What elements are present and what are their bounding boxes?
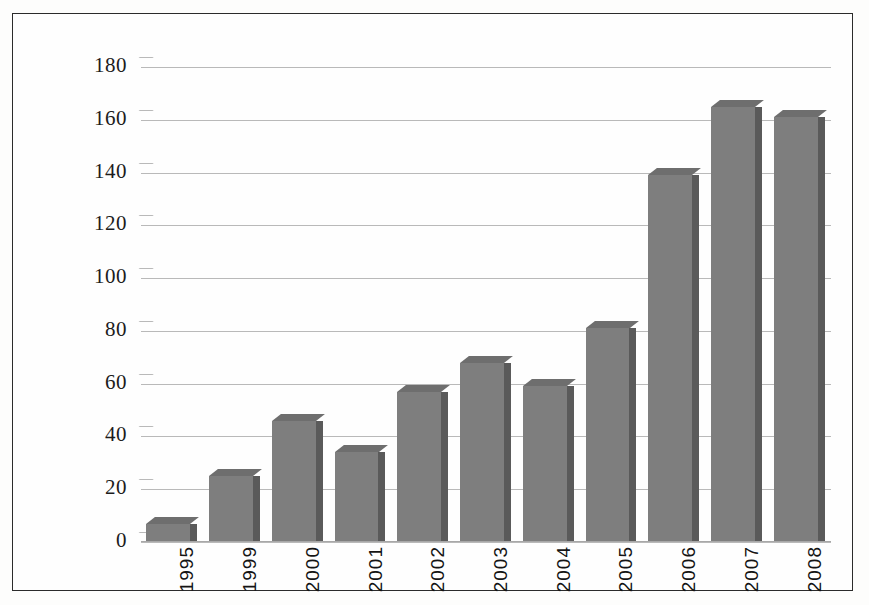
chart-frame: 020406080100120140160180 199519992000200…	[12, 13, 853, 591]
bar[interactable]	[711, 107, 755, 542]
bar-side-face	[378, 452, 385, 542]
bar-top-face	[397, 385, 450, 392]
bar-side-face	[253, 476, 260, 542]
bar-side-face	[190, 524, 197, 542]
y-axis-tick-label: 40	[105, 422, 127, 447]
bar-side-face	[567, 386, 574, 542]
x-axis-tick-label: 2002	[427, 546, 449, 592]
bar-front-face	[460, 363, 504, 542]
bar-series	[141, 54, 831, 542]
bar-top-face	[711, 100, 764, 107]
y-axis-tick-labels: 020406080100120140160180	[59, 54, 127, 542]
bar[interactable]	[586, 328, 630, 542]
bar-top-face	[146, 517, 199, 524]
bar-top-face	[209, 469, 262, 476]
y-axis-tick-label: 140	[94, 159, 127, 184]
x-axis-tick-label: 2005	[615, 546, 637, 592]
y-axis-tick-label: 80	[105, 317, 127, 342]
bar[interactable]	[648, 175, 692, 542]
x-axis-tick-label: 2008	[804, 546, 826, 592]
bar-side-face	[629, 328, 636, 542]
bar-front-face	[586, 328, 630, 542]
bar[interactable]	[460, 363, 504, 542]
bar-side-face	[441, 392, 448, 542]
x-axis-baseline	[141, 541, 831, 542]
bar-front-face	[146, 524, 190, 542]
bar-top-face	[774, 110, 827, 117]
plot-area	[141, 54, 831, 542]
x-axis-tick-label: 2006	[678, 546, 700, 592]
bar-top-face	[586, 321, 639, 328]
bar-top-face	[460, 356, 513, 363]
bar-top-face	[523, 379, 576, 386]
bar[interactable]	[523, 386, 567, 542]
bar-side-face	[504, 363, 511, 542]
bar[interactable]	[146, 524, 190, 542]
bar-side-face	[316, 421, 323, 542]
x-axis-tick-label: 2000	[302, 546, 324, 592]
y-axis-tick-label: 100	[94, 264, 127, 289]
bar[interactable]	[272, 421, 316, 542]
gridline	[141, 542, 831, 543]
bar-top-face	[335, 445, 388, 452]
x-axis-tick-label: 2003	[490, 546, 512, 592]
bar-front-face	[335, 452, 379, 542]
bar-front-face	[774, 117, 818, 542]
y-axis-tick-label: 120	[94, 211, 127, 236]
y-axis-tick-label: 160	[94, 106, 127, 131]
x-axis-tick-label: 2001	[365, 546, 387, 592]
y-axis-tick-label: 0	[116, 528, 127, 553]
chart-figure: 020406080100120140160180 199519992000200…	[0, 0, 869, 605]
x-axis-tick-labels: 1995199920002001200220032004200520062007…	[141, 546, 831, 605]
bar-top-face	[648, 168, 701, 175]
bar-top-face	[272, 414, 325, 421]
x-axis-tick-label: 2004	[553, 546, 575, 592]
y-axis-tick-label: 180	[94, 53, 127, 78]
x-axis-tick-label: 1999	[239, 546, 261, 592]
bar-front-face	[523, 386, 567, 542]
bar-side-face	[692, 175, 699, 542]
bar-front-face	[209, 476, 253, 542]
bar-front-face	[397, 392, 441, 542]
bar[interactable]	[335, 452, 379, 542]
x-axis-tick-label: 2007	[741, 546, 763, 592]
bar[interactable]	[774, 117, 818, 542]
bar-front-face	[648, 175, 692, 542]
bar-side-face	[818, 117, 825, 542]
y-axis-tick-label: 20	[105, 475, 127, 500]
bar[interactable]	[397, 392, 441, 542]
bar-front-face	[711, 107, 755, 542]
bar[interactable]	[209, 476, 253, 542]
bar-front-face	[272, 421, 316, 542]
bar-side-face	[755, 107, 762, 542]
x-axis-tick-label: 1995	[176, 546, 198, 592]
y-axis-tick-label: 60	[105, 370, 127, 395]
